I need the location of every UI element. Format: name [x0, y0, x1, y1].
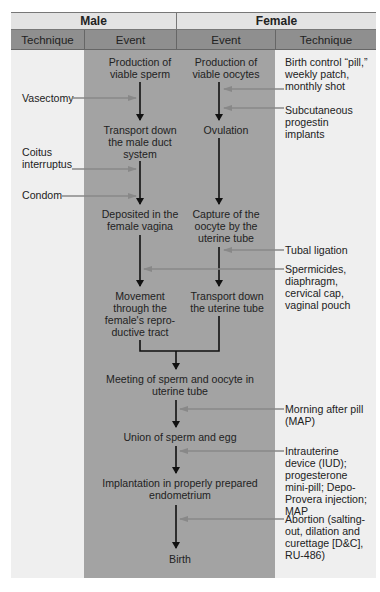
flow-arrows [0, 0, 380, 592]
